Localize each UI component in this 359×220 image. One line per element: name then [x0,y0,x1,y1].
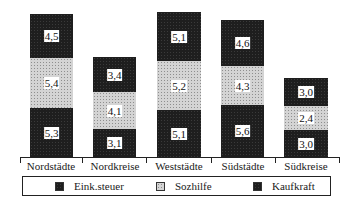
value-label: 5,6 [235,125,251,137]
legend-item: Sozhilfe [156,177,212,195]
category-label: Südkreise [274,160,338,172]
x-axis-line [20,157,340,158]
value-label: 5,2 [171,80,187,92]
value-label: 4,5 [44,30,60,42]
bar-segment-eink-steuer-2: 3,1 [93,129,136,157]
value-label: 4,6 [235,37,251,49]
bar-segment-sozhilfe-4: 4,3 [221,66,264,105]
bar-segment-eink-steuer-3: 5,1 [157,110,201,157]
legend-swatch-icon [156,182,165,191]
legend: Eink.steuerSozhilfeKaufkraft [22,176,331,196]
value-label: 3,4 [107,69,123,81]
bar-segment-eink-steuer-5: 3,0 [284,130,328,157]
legend-item: Kaufkraft [253,177,315,195]
value-label: 5,3 [44,127,60,139]
bar-segment-kaufkraft-2: 3,4 [93,57,136,92]
value-label: 3,1 [107,137,123,149]
legend-label: Kaufkraft [272,180,315,192]
value-label: 4,3 [235,80,251,92]
bar-segment-kaufkraft-1: 4,5 [30,14,73,58]
category-label: Weststädte [147,160,211,172]
bar-segment-sozhilfe-2: 4,1 [93,92,136,129]
bar-segment-kaufkraft-5: 3,0 [284,78,328,106]
category-label: Nordstädte [19,160,83,172]
value-label: 4,1 [107,105,123,117]
legend-label: Eink.steuer [74,180,124,192]
stacked-bar-chart: 5,35,44,53,14,13,45,15,25,15,64,34,63,02… [0,0,359,220]
value-label: 2,4 [298,112,314,124]
axis-tick [339,157,340,163]
bar-segment-eink-steuer-1: 5,3 [30,108,73,157]
value-label: 3,0 [298,86,314,98]
value-label: 5,1 [171,128,187,140]
value-label: 3,0 [298,138,314,150]
value-label: 5,1 [171,31,187,43]
legend-swatch-icon [253,182,262,191]
bar-segment-eink-steuer-4: 5,6 [221,105,264,157]
legend-label: Sozhilfe [175,180,212,192]
legend-item: Eink.steuer [55,177,124,195]
bar-segment-sozhilfe-5: 2,4 [284,106,328,130]
value-label: 5,4 [44,77,60,89]
bar-segment-sozhilfe-3: 5,2 [157,61,201,110]
category-label: Nordkreise [83,160,147,172]
category-label: Südstädte [211,160,275,172]
bar-segment-sozhilfe-1: 5,4 [30,58,73,108]
bar-segment-kaufkraft-3: 5,1 [157,12,201,61]
bar-segment-kaufkraft-4: 4,6 [221,20,264,66]
legend-swatch-icon [55,182,64,191]
